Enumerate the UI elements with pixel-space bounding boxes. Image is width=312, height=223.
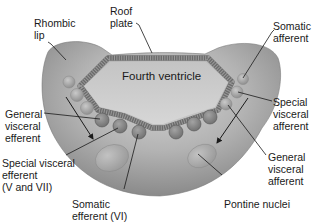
nucleus-left-1	[63, 76, 75, 88]
pons-diagram: Fourth ventricle Rhombic lip Roof plate …	[0, 0, 312, 223]
label-roof-plate: Roof plate	[110, 5, 133, 29]
label-general-visceral-efferent: General visceral efferent	[5, 108, 42, 144]
label-somatic-afferent: Somatic afferent	[273, 20, 311, 44]
nucleus-right-1	[238, 74, 249, 85]
label-somatic-efferent: Somatic efferent (VI)	[72, 198, 127, 222]
fourth-ventricle-label: Fourth ventricle	[122, 70, 201, 82]
nucleus-left-2	[71, 89, 84, 102]
nucleus-se-left	[132, 125, 146, 139]
label-general-visceral-afferent: General visceral afferent	[268, 151, 305, 187]
nucleus-sve-right	[187, 117, 201, 131]
label-special-visceral-afferent: Special visceral afferent	[273, 96, 309, 132]
label-pontine-nuclei: Pontine nuclei	[224, 198, 290, 210]
label-special-visceral-efferent: Special visceral efferent (V and VII)	[2, 157, 75, 193]
nucleus-gve-left	[95, 113, 109, 127]
nucleus-left-3	[81, 102, 94, 115]
label-rhombic-lip: Rhombic lip	[34, 17, 75, 41]
nucleus-right-2	[231, 86, 243, 98]
nucleus-gve-right	[203, 110, 217, 124]
nucleus-sve-left	[113, 119, 127, 133]
nucleus-se-right	[169, 125, 183, 139]
